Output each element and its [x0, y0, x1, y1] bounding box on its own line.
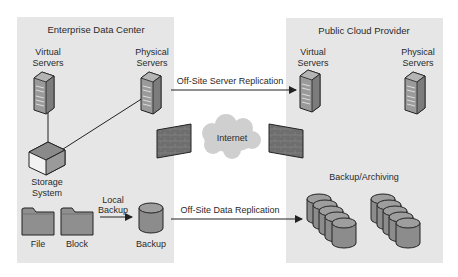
file-label: File [31, 239, 46, 249]
physical-servers-label-line1: Physical [135, 47, 169, 57]
architecture-diagram: Enterprise Data Center Public Cloud Prov… [0, 0, 458, 277]
enterprise-title: Enterprise Data Center [47, 24, 144, 35]
local-backup-label-line2: Backup [98, 205, 128, 215]
local-backup-label-line1: Local [102, 195, 124, 205]
storage-system-label-line1: Storage [31, 177, 63, 187]
firewall-right-icon [269, 124, 303, 158]
virtual-servers-label-line1: Virtual [35, 47, 60, 57]
storage-system-label-line2: System [32, 188, 62, 198]
cloud-virtual-servers-label-line1: Virtual [300, 47, 325, 57]
internet-label: Internet [217, 133, 248, 143]
backup-disk-icon [139, 203, 163, 233]
physical-servers-label-line2: Servers [136, 58, 168, 68]
archive-disk-icon [396, 218, 420, 248]
backup-archiving-label: Backup/Archiving [329, 172, 399, 182]
cloud-physical-servers-label-line1: Physical [401, 47, 435, 57]
cloud-virtual-servers-label-line2: Servers [297, 58, 329, 68]
cloud-physical-servers-label-line2: Servers [402, 58, 434, 68]
archive-disk-icon [332, 218, 356, 248]
cloud-physical-server-icon [405, 72, 425, 114]
block-label: Block [66, 239, 89, 249]
server-replication-label: Off-Site Server Replication [177, 76, 283, 86]
physical-server-icon [141, 72, 161, 114]
firewall-left-icon [157, 124, 191, 158]
file-folder-icon [22, 208, 54, 235]
virtual-servers-label-line2: Servers [32, 58, 64, 68]
block-folder-icon [61, 208, 93, 235]
backup-label: Backup [136, 239, 166, 249]
cloud-virtual-server-icon [300, 70, 320, 112]
data-replication-label: Off-Site Data Replication [181, 205, 280, 215]
virtual-server-icon [34, 72, 54, 114]
cloud-provider-title: Public Cloud Provider [318, 25, 409, 36]
